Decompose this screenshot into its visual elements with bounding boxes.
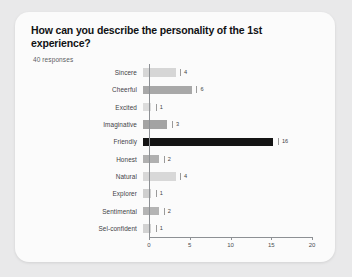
bar <box>143 68 176 77</box>
x-axis-tick-label: 20 <box>309 242 316 248</box>
bar-rows: Sincere4Cheerful6Excited1Imaginative3Fri… <box>31 64 319 237</box>
x-axis-tick <box>190 237 191 240</box>
bar-value-label: 1 <box>156 104 163 111</box>
bar-value-label: 4 <box>180 69 187 76</box>
bar-value-label: 4 <box>180 173 187 180</box>
bar-row: Explorer1 <box>31 185 319 202</box>
bar-track: 3 <box>143 116 319 133</box>
bar <box>143 172 176 181</box>
bar-category-label: Friendly <box>31 138 143 145</box>
bar <box>143 155 159 164</box>
bar-category-label: Honest <box>31 156 143 163</box>
card-header: How can you describe the personality of … <box>31 24 271 63</box>
y-axis-line <box>149 64 150 237</box>
bar-row: Excited1 <box>31 99 319 116</box>
x-axis-tick <box>149 237 150 240</box>
bar-row: Honest2 <box>31 150 319 167</box>
bar-track: 2 <box>143 202 319 219</box>
bar-category-label: Sincere <box>31 69 143 76</box>
screenshot-root: How can you describe the personality of … <box>0 0 352 277</box>
bar-category-label: Sel-confident <box>31 225 143 232</box>
bar-category-label: Excited <box>31 104 143 111</box>
bar <box>143 120 167 129</box>
bar <box>143 138 273 147</box>
bar-category-label: Explorer <box>31 190 143 197</box>
bar-category-label: Cheerful <box>31 86 143 93</box>
bar-category-label: Imaginative <box>31 121 143 128</box>
bar-value-label: 1 <box>156 190 163 197</box>
bar-track: 6 <box>143 81 319 98</box>
bar-row: Sentimental2 <box>31 202 319 219</box>
response-count: 40 responses <box>33 56 271 63</box>
page-title: How can you describe the personality of … <box>31 24 271 50</box>
bar-track: 4 <box>143 168 319 185</box>
bar-row: Natural4 <box>31 168 319 185</box>
bar-value-label: 2 <box>164 208 171 215</box>
bar-chart: Sincere4Cheerful6Excited1Imaginative3Fri… <box>31 64 319 254</box>
bar-value-label: 16 <box>278 138 288 145</box>
bar <box>143 86 192 95</box>
bar-value-label: 1 <box>156 225 163 232</box>
x-axis-tick <box>312 237 313 240</box>
bar-row: Cheerful6 <box>31 81 319 98</box>
bar-category-label: Sentimental <box>31 208 143 215</box>
survey-result-card: How can you describe the personality of … <box>15 12 335 262</box>
bar-track: 16 <box>143 133 319 150</box>
bar-row: Sincere4 <box>31 64 319 81</box>
bar-track: 1 <box>143 220 319 237</box>
x-axis-tick-label: 15 <box>268 242 275 248</box>
bar-track: 2 <box>143 150 319 167</box>
bar-row: Sel-confident1 <box>31 220 319 237</box>
bar-track: 4 <box>143 64 319 81</box>
bar-value-label: 3 <box>172 121 179 128</box>
bar-track: 1 <box>143 185 319 202</box>
x-axis-tick-label: 0 <box>147 242 150 248</box>
x-axis-tick-label: 5 <box>188 242 191 248</box>
bar <box>143 207 159 216</box>
bar-row: Friendly16 <box>31 133 319 150</box>
bar-category-label: Natural <box>31 173 143 180</box>
x-axis-tick <box>271 237 272 240</box>
x-axis-tick <box>231 237 232 240</box>
x-axis-tick-label: 10 <box>227 242 234 248</box>
bar-value-label: 6 <box>196 86 203 93</box>
bar-value-label: 2 <box>164 156 171 163</box>
bar-row: Imaginative3 <box>31 116 319 133</box>
bar-track: 1 <box>143 99 319 116</box>
